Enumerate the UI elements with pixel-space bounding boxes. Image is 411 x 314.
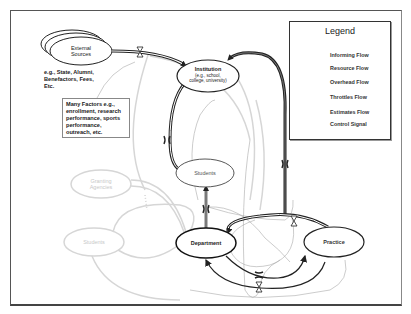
practice-label: Practice bbox=[310, 239, 358, 245]
granting-agencies-label: Granting Agencies bbox=[81, 178, 121, 191]
students-label: Students bbox=[180, 170, 230, 176]
external-sources-label: External Sources bbox=[61, 45, 101, 58]
hourglass-icon bbox=[256, 282, 262, 292]
legend-title: Legend bbox=[290, 26, 390, 36]
students-faded-label: Students bbox=[74, 239, 114, 245]
informing-flow-department-practice bbox=[226, 256, 305, 278]
external-sources-examples: e.g., State, Alumni, Benefactors, Fees, … bbox=[44, 69, 96, 90]
legend: Legend Informing Flow Resource Flow Over… bbox=[289, 21, 391, 140]
informing-flow-practice-department bbox=[206, 260, 325, 288]
legend-resource-flow: Resource Flow bbox=[330, 65, 368, 71]
legend-control-signal: Control Signal bbox=[330, 121, 367, 127]
resource-flow-institution-students bbox=[170, 83, 185, 170]
department-label: Department bbox=[180, 240, 232, 246]
legend-overhead-flow: Overhead Flow bbox=[330, 79, 369, 85]
many-factors-note: Many Factors e.g., enrollment, research … bbox=[62, 98, 130, 138]
legend-informing-flow: Informing Flow bbox=[330, 52, 369, 58]
flow-practice-department-top bbox=[228, 214, 328, 233]
hourglass-icon bbox=[291, 216, 297, 226]
legend-throttles-flow: Throttles Flow bbox=[330, 94, 367, 100]
resource-flow-external-institution bbox=[112, 51, 186, 66]
institution-label: Institution bbox=[183, 66, 233, 72]
legend-estimates-flow: Estimates Flow bbox=[330, 109, 369, 115]
brackets-icon bbox=[164, 136, 170, 144]
institution-sublabel: (e.g., school, college, university) bbox=[187, 73, 229, 83]
